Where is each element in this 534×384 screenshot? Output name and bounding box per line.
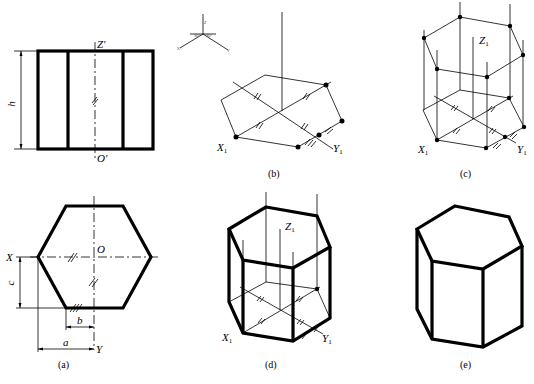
label-y: Y: [96, 343, 104, 355]
label-z1: Z1: [285, 220, 295, 234]
panel-b: 30° 30° Z X Y X1: [177, 12, 345, 180]
vertex-point: [296, 145, 301, 150]
label-y1: Y1: [333, 142, 343, 156]
front-view-outline: [38, 51, 153, 149]
prism-top-face: [229, 207, 330, 268]
vertex-point: [315, 287, 319, 291]
parallel-mark: [93, 99, 98, 105]
front-view: h Z' O': [5, 38, 153, 164]
isometric-axis-icon: 30° 30° Z X Y: [177, 14, 230, 53]
dim-label-a: a: [63, 336, 69, 348]
axis-label-x: X: [177, 46, 180, 51]
top-view: O X Y c b a: [4, 196, 158, 355]
caption-e: (e): [460, 359, 471, 371]
caption-b: (b): [268, 168, 280, 180]
dim-label-b: b: [77, 314, 83, 326]
panel-a: h Z' O' O X Y c: [4, 38, 158, 371]
arrow-icon: [20, 51, 23, 56]
panel-e: (e): [417, 206, 522, 371]
axis-label-y: Y: [227, 48, 230, 53]
caption-c: (c): [460, 168, 471, 180]
label-z1: Z1: [479, 34, 489, 48]
label-x: X: [5, 251, 14, 263]
label-y1: Y1: [322, 332, 332, 346]
dim-label-c: c: [4, 280, 16, 285]
label-x1: X1: [216, 141, 228, 155]
arrow-icon: [19, 257, 22, 262]
panel-d: Z1 X1 Y1 (d): [221, 192, 332, 371]
x-axis: [437, 96, 513, 140]
label-x1: X1: [417, 143, 429, 157]
arrow-icon: [19, 303, 22, 308]
arrow-icon: [89, 348, 94, 351]
vertex-point: [324, 83, 329, 88]
prism-top-face: [417, 206, 522, 269]
label-o: O: [97, 243, 105, 255]
arrow-icon: [20, 144, 23, 149]
arrow-icon: [66, 326, 71, 329]
label-x1: X1: [221, 331, 233, 345]
hexagonal-prism-figure: h Z' O' O X Y c: [0, 0, 534, 384]
label-z-prime: Z': [97, 38, 106, 50]
parallel-mark: [92, 97, 97, 103]
parallel-mark: [68, 253, 74, 262]
angle-label: 30°: [206, 33, 212, 38]
parallel-mark: [71, 253, 77, 262]
angle-label: 30°: [194, 33, 200, 38]
vertex-point: [340, 119, 345, 124]
axis-label-z: Z: [204, 20, 207, 25]
caption-a: (a): [58, 359, 69, 371]
dim-label-h: h: [5, 101, 17, 107]
vertex-point: [317, 133, 322, 138]
panel-c: Z1 X1 Y1 (c): [417, 2, 527, 180]
x-axis: [236, 82, 331, 137]
arrow-icon: [89, 326, 94, 329]
vertex-points: [422, 15, 526, 150]
label-o-prime: O': [97, 152, 108, 164]
vertex-point: [234, 135, 239, 140]
caption-d: (d): [265, 359, 277, 371]
arrow-icon: [38, 348, 43, 351]
label-y1: Y1: [517, 143, 527, 157]
